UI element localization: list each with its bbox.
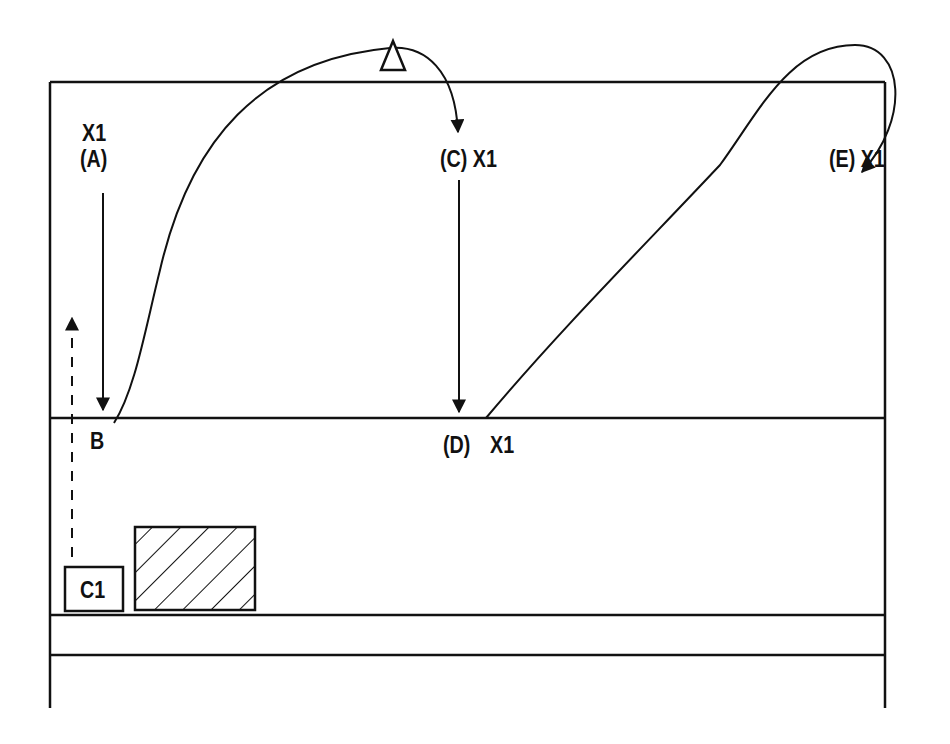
court-diagram [0,0,950,744]
label-d-player: X1 [490,432,514,458]
hatched-target-area [135,527,255,610]
label-d-position: (D) [443,432,470,458]
curve-d-to-e [486,45,895,418]
court-outline [50,82,885,708]
label-e: (E) X1 [829,146,885,172]
label-c1: C1 [80,577,105,603]
triangle-marker-icon [381,41,405,70]
label-b: B [90,428,104,454]
curve-b-to-c [114,48,458,423]
label-a-position: (A) [80,146,107,172]
label-a-player: X1 [82,120,106,146]
label-c: (C) X1 [440,146,497,172]
